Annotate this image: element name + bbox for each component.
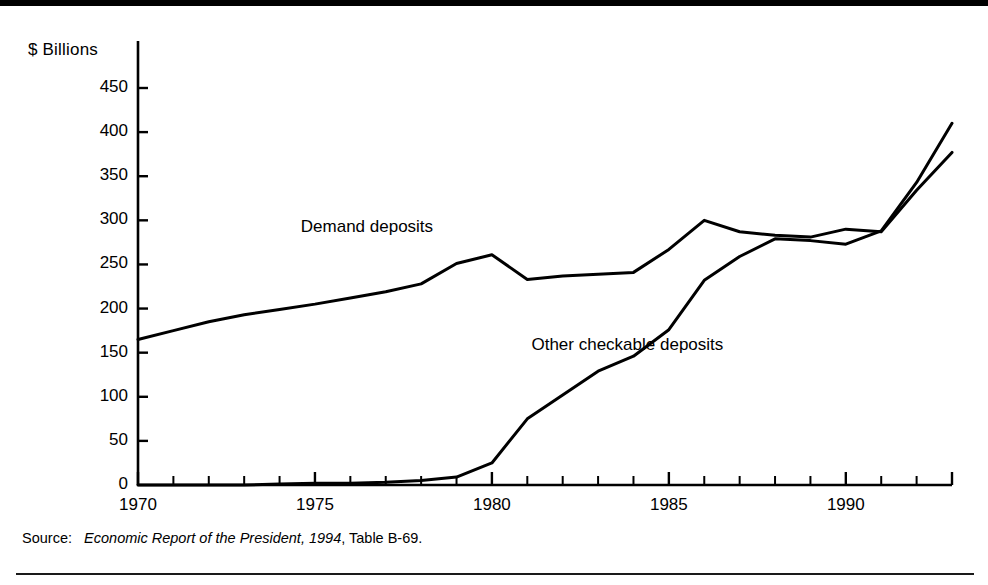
bottom-rule-divider <box>16 573 974 575</box>
y-tick-label: 400 <box>56 121 128 141</box>
source-suffix: , Table B-69. <box>341 530 422 546</box>
x-tick-label: 1990 <box>801 495 891 515</box>
y-tick-label: 450 <box>56 77 128 97</box>
y-tick-label: 100 <box>56 386 128 406</box>
y-tick-label: 350 <box>56 165 128 185</box>
annotation-demand-deposits: Demand deposits <box>301 216 433 237</box>
y-tick-label: 50 <box>56 430 128 450</box>
source-citation-title: Economic Report of the President, 1994 <box>84 530 341 546</box>
x-tick-label: 1970 <box>93 495 183 515</box>
y-tick-label: 250 <box>56 253 128 273</box>
source-prefix: Source: <box>22 530 72 546</box>
x-tick-label: 1985 <box>624 495 714 515</box>
y-tick-label: 300 <box>56 209 128 229</box>
chart-figure: $ Billions 050100150200250300350400450 1… <box>0 0 988 585</box>
y-tick-label: 0 <box>56 474 128 494</box>
y-tick-label: 200 <box>56 298 128 318</box>
x-tick-label: 1975 <box>270 495 360 515</box>
series-line-other-checkable-deposits <box>138 123 952 485</box>
y-tick-label: 150 <box>56 342 128 362</box>
series-line-demand-deposits <box>138 152 952 339</box>
x-tick-label: 1980 <box>447 495 537 515</box>
source-note: Source: Economic Report of the President… <box>22 530 422 546</box>
annotation-other-checkable-deposits: Other checkable deposits <box>531 334 706 355</box>
